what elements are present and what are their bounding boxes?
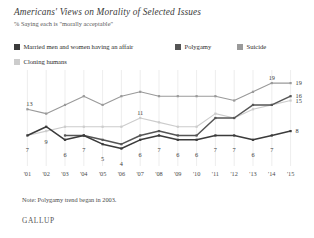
data-point-label: 6	[139, 151, 142, 158]
legend-swatch-icon-suicide	[237, 44, 243, 50]
x-axis-tick-label: '15	[287, 170, 294, 177]
data-point-label: 6	[63, 151, 66, 158]
legend-item-affair: Married men and women having an affair	[14, 35, 133, 44]
chart-note: Note: Polygamy trend began in 2003.	[22, 196, 116, 203]
legend-item-cloning: Cloning humans	[14, 50, 67, 59]
data-point-label: 6	[176, 151, 179, 158]
data-point-label: 19	[269, 74, 275, 81]
x-axis-tick-label: '09	[174, 170, 181, 177]
plot-area: 796754676677678161319191115	[18, 70, 300, 166]
legend-label-suicide: Suicide	[247, 43, 267, 50]
x-axis-tick-label: '11	[212, 170, 219, 177]
legend-item-suicide: Suicide	[237, 35, 266, 44]
data-point-label: 4	[120, 160, 123, 167]
legend-swatch-icon-cloning	[14, 59, 20, 65]
data-point-label: 13	[26, 100, 32, 107]
chart-container: Americans' Views on Morality of Selected…	[0, 0, 314, 238]
data-point-label: 5	[101, 155, 104, 162]
data-point-label: 7	[214, 146, 217, 153]
data-point-label: 7	[26, 146, 29, 153]
x-axis-tick-label: '01	[24, 170, 31, 177]
data-point-label: 7	[270, 146, 273, 153]
x-axis: '01'02'03'04'05'06'07'08'09'10'11'12'13'…	[18, 170, 300, 182]
legend-item-polygamy: Polygamy	[175, 35, 211, 44]
x-axis-tick-label: '14	[268, 170, 275, 177]
data-point-label: 7	[233, 146, 236, 153]
x-axis-tick-label: '05	[99, 170, 106, 177]
chart-subtitle: % Saying each is "morally acceptable"	[14, 20, 113, 27]
data-point-label: 19	[296, 79, 302, 86]
legend-label-polygamy: Polygamy	[185, 43, 212, 50]
page-title: Americans' Views on Morality of Selected…	[14, 7, 201, 17]
legend-label-affair: Married men and women having an affair	[24, 43, 134, 50]
data-point-label: 9	[45, 138, 48, 145]
data-point-label: 11	[137, 109, 143, 116]
x-axis-tick-label: '07	[136, 170, 143, 177]
data-point-label: 6	[251, 151, 254, 158]
data-point-label: 7	[157, 146, 160, 153]
x-axis-tick-label: '12	[230, 170, 237, 177]
legend-swatch-icon-affair	[14, 44, 20, 50]
x-axis-tick-label: '13	[249, 170, 256, 177]
data-point-label: 8	[296, 127, 299, 134]
x-axis-tick-label: '06	[118, 170, 125, 177]
x-axis-tick-label: '10	[193, 170, 200, 177]
data-point-label: 7	[82, 146, 85, 153]
legend-swatch-icon-polygamy	[175, 44, 181, 50]
x-axis-tick-label: '03	[61, 170, 68, 177]
x-axis-tick-label: '02	[42, 170, 49, 177]
data-point-label: 6	[195, 151, 198, 158]
legend-label-cloning: Cloning humans	[24, 58, 67, 65]
x-axis-tick-label: '04	[80, 170, 87, 177]
gallup-logo: GALLUP	[22, 216, 55, 225]
data-point-label: 15	[296, 97, 302, 104]
x-axis-tick-label: '08	[155, 170, 162, 177]
